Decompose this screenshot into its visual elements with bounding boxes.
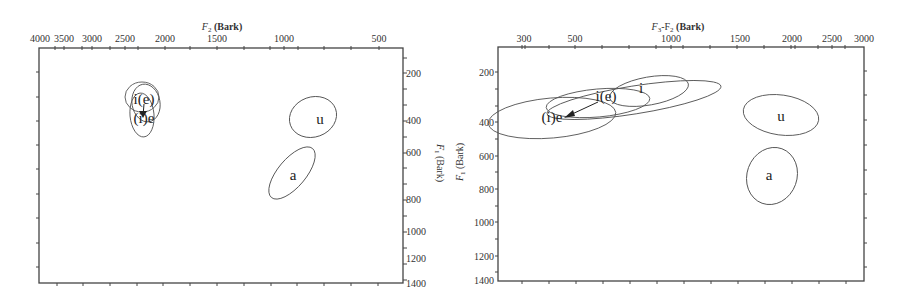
svg-text:500: 500 <box>568 33 583 44</box>
svg-text:2000: 2000 <box>155 33 175 44</box>
svg-text:600: 600 <box>406 147 421 158</box>
left-ellipses <box>125 82 342 207</box>
right-chart: F3-F2 (Bark) 300 500 1000 1500 2000 2500… <box>454 21 874 286</box>
svg-text:1000: 1000 <box>274 33 294 44</box>
svg-text:2500: 2500 <box>822 33 842 44</box>
vowel-label-u: u <box>777 108 785 124</box>
figure: F2 (Bark) 4000 3500 3000 2500 2000 1500 … <box>0 0 901 304</box>
left-x-tick-labels: 4000 3500 3000 2500 2000 1500 1000 500 <box>30 33 387 44</box>
vowel-label-i-e: i(e) <box>596 88 617 105</box>
vowel-label-u: u <box>316 111 324 127</box>
left-chart: F2 (Bark) 4000 3500 3000 2500 2000 1500 … <box>30 21 446 289</box>
svg-text:1000: 1000 <box>474 217 494 228</box>
svg-text:400: 400 <box>406 115 421 126</box>
svg-text:1200: 1200 <box>406 253 426 264</box>
right-y-axis: 200 400 600 800 1000 1200 1400 <box>474 67 498 286</box>
left-plot-frame <box>39 48 403 283</box>
vowel-label-ie: (i)e <box>134 110 155 127</box>
vowel-label-i: i <box>639 80 643 96</box>
left-y-axis: 200 400 600 800 1000 1200 1400 <box>403 58 426 289</box>
svg-text:1200: 1200 <box>474 251 494 262</box>
right-x-tick-labels: 300 500 1000 1500 2000 2500 3000 <box>517 33 875 44</box>
svg-text:1000: 1000 <box>661 33 681 44</box>
svg-text:1500: 1500 <box>207 33 227 44</box>
svg-text:200: 200 <box>406 68 421 79</box>
svg-text:1400: 1400 <box>406 278 426 289</box>
ellipse-u <box>284 90 343 144</box>
svg-text:1000: 1000 <box>406 226 426 237</box>
ellipse-i-outer <box>545 72 723 127</box>
svg-text:800: 800 <box>406 194 421 205</box>
svg-text:600: 600 <box>479 151 494 162</box>
right-plot-frame <box>498 47 864 281</box>
svg-text:500: 500 <box>372 33 387 44</box>
svg-text:200: 200 <box>479 67 494 78</box>
svg-text:3000: 3000 <box>854 33 874 44</box>
right-ellipses <box>487 70 822 212</box>
svg-text:3000: 3000 <box>82 33 102 44</box>
left-y-axis-title: F1 (Bark) <box>433 143 446 182</box>
right-y-axis-title: F1 (Bark) <box>454 143 467 182</box>
vowel-label-a: a <box>766 167 773 183</box>
svg-text:2000: 2000 <box>782 33 802 44</box>
svg-text:800: 800 <box>479 184 494 195</box>
svg-text:4000: 4000 <box>30 33 50 44</box>
svg-text:2500: 2500 <box>115 33 135 44</box>
svg-text:1400: 1400 <box>474 275 494 286</box>
right-arrow <box>564 102 598 118</box>
svg-text:300: 300 <box>517 33 532 44</box>
svg-text:3500: 3500 <box>54 33 74 44</box>
vowel-label-a: a <box>290 167 297 183</box>
vowel-label-i-e: i(e) <box>134 91 155 108</box>
svg-text:400: 400 <box>479 117 494 128</box>
svg-text:1500: 1500 <box>730 33 750 44</box>
vowel-label-ie: (i)e <box>542 109 563 126</box>
